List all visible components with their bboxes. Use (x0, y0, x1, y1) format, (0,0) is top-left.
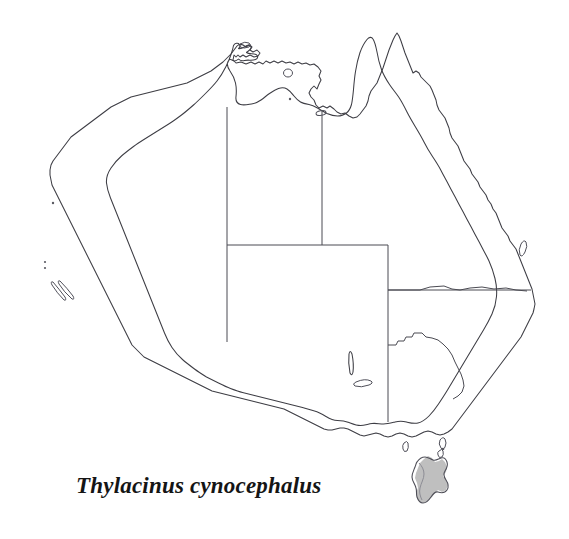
fraser-island (519, 241, 527, 256)
west-coast-islet-c (52, 202, 54, 204)
flinders-island (439, 438, 446, 450)
border-nsw-vic-murray (388, 333, 464, 399)
wellesley-islands (316, 110, 327, 116)
groote-eylandt (284, 69, 293, 77)
west-coast-islet-b (44, 267, 46, 269)
species-caption: Thylacinus cynocephalus (76, 473, 321, 498)
distribution-map-figure: Thylacinus cynocephalus (0, 0, 569, 539)
west-coast-islet-a (44, 261, 46, 263)
tasmania-ne-islet (438, 450, 444, 458)
king-island (403, 442, 409, 452)
kangaroo-island (354, 380, 372, 387)
yorke-peninsula (349, 352, 354, 375)
australia-map-svg (0, 0, 569, 539)
mornington-island (289, 98, 291, 100)
